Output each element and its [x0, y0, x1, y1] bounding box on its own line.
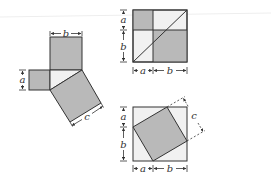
figure-bottom-right: c a b a b: [120, 97, 205, 175]
label-b: b: [167, 65, 173, 76]
label-b: b: [63, 28, 69, 39]
label-b: b: [120, 41, 126, 52]
dimension-left: a b: [120, 10, 127, 62]
figure-left: b a c: [19, 28, 104, 127]
label-a: a: [121, 111, 127, 122]
label-a: a: [121, 14, 127, 25]
square-b-squared: [153, 30, 187, 62]
square-a-squared: [133, 10, 153, 30]
pythagorean-diagram: b a c: [0, 0, 271, 182]
dimension-a: a: [19, 70, 26, 90]
label-a: a: [140, 163, 146, 174]
square-b: [50, 37, 82, 70]
square-a: [29, 70, 50, 90]
dimension-bottom: a b: [133, 65, 187, 76]
figure-top-right: a b a b: [120, 10, 187, 76]
label-b: b: [120, 139, 126, 150]
dimension-left: a b: [120, 107, 127, 161]
label-c: c: [191, 110, 197, 121]
label-c: c: [84, 111, 90, 122]
label-a: a: [140, 65, 146, 76]
label-a: a: [20, 74, 26, 85]
label-b: b: [167, 163, 173, 174]
dimension-bottom: a b: [133, 163, 187, 174]
